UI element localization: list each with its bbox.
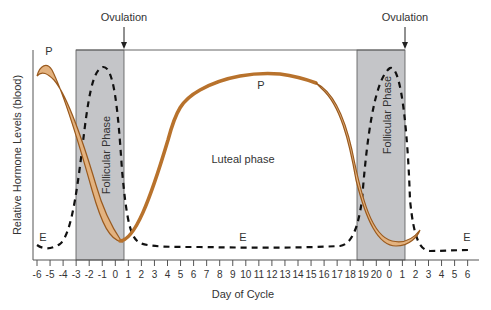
x-tick-label: 9	[230, 269, 236, 280]
x-axis-tick-labels: -6-5-4-3-2-10123456789101112131415161718…	[33, 269, 471, 280]
x-tick-label: -4	[59, 269, 68, 280]
x-tick-label: -1	[98, 269, 107, 280]
hormone-cycle-diagram: -6-5-4-3-2-10123456789101112131415161718…	[0, 0, 491, 310]
x-tick-label: -6	[33, 269, 42, 280]
x-tick-label: 3	[152, 269, 158, 280]
x-tick-label: 19	[358, 269, 370, 280]
e-label-2: E	[239, 231, 246, 243]
x-tick-label: 2	[139, 269, 145, 280]
p-label-1: P	[45, 45, 52, 57]
x-tick-label: 5	[178, 269, 184, 280]
x-tick-label: 2	[413, 269, 419, 280]
x-tick-label: 11	[254, 269, 265, 280]
x-tick-label: 4	[165, 269, 171, 280]
arrowhead-icon	[402, 42, 408, 49]
x-tick-label: -2	[85, 269, 94, 280]
arrowhead-icon	[121, 42, 127, 49]
follicular-phase-label-2: Follicular Phase	[381, 76, 393, 154]
p-label-2: P	[257, 79, 264, 91]
x-tick-label: 18	[345, 269, 357, 280]
x-tick-label: 0	[113, 269, 119, 280]
x-tick-label: 7	[204, 269, 210, 280]
follicular-phase-label-1: Follicular Phase	[100, 116, 112, 194]
x-tick-label: 4	[439, 269, 445, 280]
x-tick-label: 12	[266, 269, 278, 280]
luteal-phase-label: Luteal phase	[212, 153, 275, 165]
e-label-3: E	[463, 231, 470, 243]
x-axis-label: Day of Cycle	[212, 288, 274, 300]
x-tick-label: 1	[400, 269, 406, 280]
x-tick-label: 5	[452, 269, 458, 280]
x-tick-label: 16	[319, 269, 331, 280]
ovulation-label-2: Ovulation	[382, 11, 428, 23]
x-tick-label: 8	[217, 269, 223, 280]
x-tick-label: 3	[426, 269, 432, 280]
x-axis-ticks	[37, 260, 468, 266]
x-tick-label: 14	[292, 269, 304, 280]
x-tick-label: 13	[279, 269, 291, 280]
y-axis-label: Relative Hormone Levels (blood)	[11, 75, 23, 235]
x-tick-label: 0	[387, 269, 393, 280]
x-tick-label: -5	[46, 269, 55, 280]
x-tick-label: 6	[191, 269, 197, 280]
x-tick-label: 20	[371, 269, 383, 280]
x-tick-label: 6	[465, 269, 471, 280]
ovulation-label-1: Ovulation	[101, 11, 147, 23]
x-tick-label: -3	[72, 269, 81, 280]
e-label-1: E	[39, 231, 46, 243]
x-tick-label: 15	[305, 269, 317, 280]
x-tick-label: 1	[126, 269, 132, 280]
x-tick-label: 17	[332, 269, 344, 280]
x-tick-label: 10	[240, 269, 252, 280]
